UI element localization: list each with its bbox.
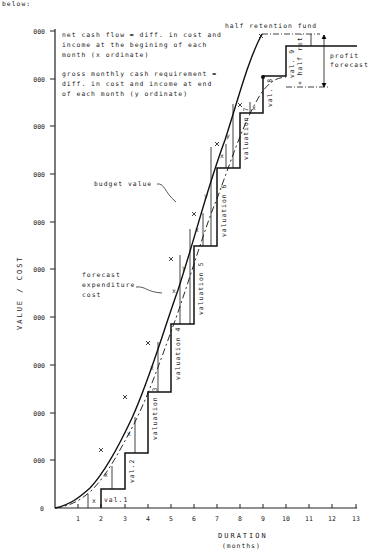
svg-text:000: 000 — [33, 28, 45, 36]
svg-text:gross monthly cash requirement: gross monthly cash requirement = — [62, 70, 217, 78]
x-axis-unit: (months) — [222, 542, 261, 550]
svg-text:x: x — [127, 430, 132, 438]
svg-text:5: 5 — [169, 515, 173, 523]
svg-text:net cash flow = diff. in: net cash flow = diff. in cost and — [62, 31, 222, 39]
svg-text:y: y — [182, 264, 187, 272]
svg-text:13: 13 — [352, 515, 360, 523]
profit-forecast-dimension — [311, 34, 326, 87]
ordinate-labels: x x x x x y x y x y x — [92, 104, 257, 505]
valuation-steps — [101, 46, 357, 508]
svg-text:diff. in cost and income at en: diff. in cost and income at end — [62, 80, 212, 88]
svg-text:000: 000 — [33, 123, 45, 131]
svg-text:000: 000 — [33, 362, 45, 370]
header-fragment: below: — [2, 0, 31, 8]
svg-text:3: 3 — [123, 515, 127, 523]
svg-text:12: 12 — [328, 515, 336, 523]
svg-text:000: 000 — [33, 314, 45, 322]
svg-text:valuation 3: valuation 3 — [151, 387, 159, 440]
forecast-cost-label-2: expenditure — [82, 281, 135, 289]
svg-text:of each month (y ordinate): of each month (y ordinate) — [62, 90, 188, 98]
svg-text:x: x — [195, 226, 200, 234]
svg-text:val.2: val.2 — [128, 459, 136, 483]
svg-text:6: 6 — [192, 515, 196, 523]
svg-text:8: 8 — [238, 515, 242, 523]
note-gross-requirement: gross monthly cash requirement = diff. i… — [62, 70, 217, 98]
svg-text:valuation 7: valuation 7 — [242, 107, 250, 160]
profit-forecast-label: profit — [330, 52, 359, 60]
svg-text:x: x — [104, 471, 109, 479]
budget-value-leader — [157, 184, 176, 202]
svg-text:x: x — [220, 152, 225, 160]
y-axis-title: VALUE / COST — [16, 255, 24, 330]
svg-text:val. 9: val. 9 — [288, 49, 296, 78]
svg-text:2: 2 — [99, 515, 103, 523]
svg-text:0: 0 — [40, 505, 44, 513]
note-net-cash-flow: net cash flow = diff. in cost and income… — [62, 31, 222, 59]
svg-text:000: 000 — [33, 76, 45, 84]
svg-text:7: 7 — [215, 515, 219, 523]
svg-text:11: 11 — [305, 515, 313, 523]
svg-text:10: 10 — [282, 515, 290, 523]
y-ticks — [50, 31, 55, 460]
svg-text:000: 000 — [33, 457, 45, 465]
svg-text:valuation 4: valuation 4 — [174, 327, 182, 380]
svg-text:000: 000 — [33, 266, 45, 274]
svg-text:000: 000 — [33, 171, 45, 179]
dimension-arrows — [88, 102, 250, 508]
svg-text:x: x — [172, 287, 177, 295]
budget-value-label: budget value — [94, 180, 152, 188]
forecast-cost-label: forecast — [82, 271, 121, 279]
svg-text:val. 8: val. 8 — [266, 78, 274, 107]
svg-text:valuation 5: valuation 5 — [197, 262, 205, 315]
svg-text:000: 000 — [33, 410, 45, 418]
svg-text:4: 4 — [146, 515, 150, 523]
svg-text:+ half ret.: + half ret. — [296, 32, 304, 85]
y-tick-labels: 0 000 000 000 000 000 000 000 000 000 00… — [33, 28, 45, 513]
valuation-labels: val.1 val.2 valuation 3 valuation 4 valu… — [104, 32, 304, 504]
svg-text:000: 000 — [33, 219, 45, 227]
svg-text:income at the begining of: income at the begining of each — [62, 41, 207, 49]
svg-text:y: y — [226, 132, 231, 140]
svg-text:x: x — [92, 497, 97, 505]
profit-forecast-label-2: forecast — [330, 61, 369, 69]
svg-text:x: x — [252, 104, 257, 112]
svg-text:valuation 6: valuation 6 — [220, 184, 228, 237]
svg-text:month (x ordinate): month (x ordinate) — [62, 51, 149, 59]
x-axis-title: DURATION — [218, 532, 268, 540]
svg-text:9: 9 — [261, 515, 265, 523]
svg-text:y: y — [204, 192, 209, 200]
forecast-cost-leader — [136, 287, 162, 293]
svg-text:val.1: val.1 — [104, 496, 128, 504]
svg-text:1: 1 — [76, 515, 80, 523]
x-tick-labels: 1 2 3 4 5 6 7 8 9 10 11 12 13 — [76, 515, 360, 523]
half-retention-label: half retention fund — [225, 22, 317, 30]
cash-flow-diagram: below: 0 000 000 000 000 000 000 000 000… — [0, 0, 382, 558]
svg-text:x: x — [150, 364, 155, 372]
forecast-cost-label-3: cost — [82, 291, 101, 299]
